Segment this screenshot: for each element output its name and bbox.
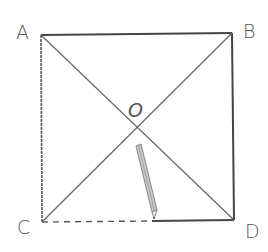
diagonal-bc [42, 33, 232, 222]
diagram-canvas: A B C D O [0, 0, 268, 252]
pencil-icon [136, 144, 157, 219]
label-a: A [16, 21, 29, 43]
label-b: B [243, 20, 255, 42]
label-o: O [128, 99, 143, 121]
side-ab [41, 33, 232, 35]
side-cd-drawn [152, 220, 234, 221]
side-ac [41, 35, 42, 222]
label-d: D [245, 220, 260, 242]
square-diagram: A B C D O [0, 0, 268, 252]
side-bd [232, 33, 234, 220]
side-cd-dashed [42, 221, 152, 222]
label-c: C [17, 216, 30, 238]
